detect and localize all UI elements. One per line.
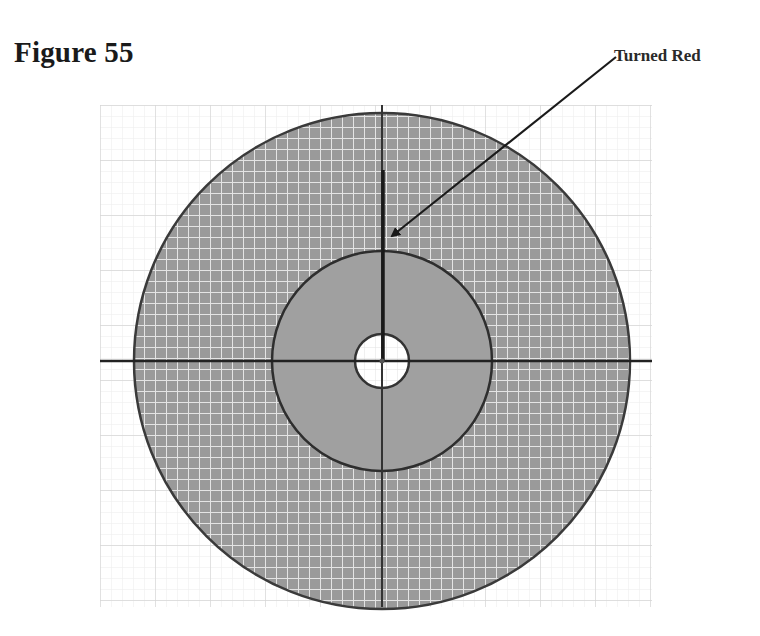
center-point: [380, 359, 385, 364]
target-diagram: [0, 0, 760, 636]
